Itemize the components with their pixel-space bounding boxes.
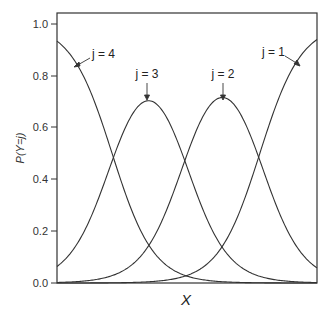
curve-j1 [57, 40, 317, 283]
curve-j2 [57, 97, 317, 282]
annotation-j3: j = 3 [134, 67, 158, 81]
y-tick-label: 0.0 [33, 277, 48, 289]
chart: 0.0 0.2 0.4 0.6 0.8 1.0 P(Y=j) X j = 4 j… [0, 0, 328, 314]
y-tick-label: 0.2 [33, 225, 48, 237]
y-tick-label: 1.0 [33, 18, 48, 30]
annotation-j1: j = 1 [261, 45, 285, 59]
curve-j4 [57, 41, 317, 283]
annotation-j2: j = 2 [210, 67, 234, 81]
curves [57, 40, 317, 283]
y-axis [51, 24, 57, 283]
y-tick-label: 0.8 [33, 70, 48, 82]
curve-j3 [57, 101, 317, 283]
y-tick-label: 0.4 [33, 173, 48, 185]
annotations [74, 56, 300, 100]
annotation-j4: j = 4 [91, 47, 115, 61]
y-axis-title: P(Y=j) [14, 132, 26, 163]
x-axis-title: X [180, 291, 192, 308]
y-tick-label: 0.6 [33, 121, 48, 133]
y-tick-labels: 0.0 0.2 0.4 0.6 0.8 1.0 [33, 18, 48, 289]
